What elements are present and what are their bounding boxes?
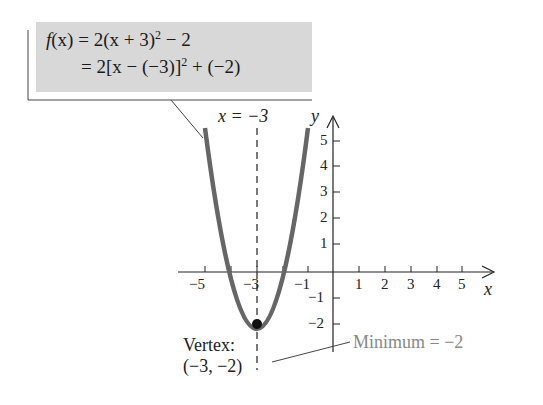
y-ticks xyxy=(333,141,340,324)
x-axis-label: x xyxy=(484,279,492,300)
y-tick-label: 2 xyxy=(320,209,328,226)
y-tick-label: 3 xyxy=(320,183,328,200)
y-tick-label: 4 xyxy=(320,157,328,174)
x-tick-label: −5 xyxy=(189,276,205,293)
axis-of-symmetry-label: x = −3 xyxy=(218,106,268,127)
formula-connector xyxy=(171,100,203,138)
x-tick-label: −3 xyxy=(243,276,259,293)
minimum-label: Minimum = −2 xyxy=(353,332,463,353)
y-tick-label: −2 xyxy=(308,315,324,332)
y-tick-label: −1 xyxy=(308,289,324,306)
vertex-point xyxy=(252,319,262,329)
x-tick-label: 1 xyxy=(355,276,363,293)
x-tick-label: 2 xyxy=(381,276,389,293)
vertex-connector xyxy=(272,342,350,362)
vertex-label: Vertex: xyxy=(183,335,235,356)
y-tick-label: 1 xyxy=(320,235,328,252)
x-tick-label: 4 xyxy=(433,276,441,293)
y-axis-label: y xyxy=(311,106,319,127)
x-tick-label: 5 xyxy=(458,276,466,293)
x-tick-label: 3 xyxy=(407,276,415,293)
y-tick-label: 5 xyxy=(320,132,328,149)
vertex-coords: (−3, −2) xyxy=(183,356,242,377)
